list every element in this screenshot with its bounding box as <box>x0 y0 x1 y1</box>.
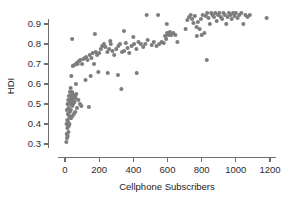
data-point <box>189 13 193 17</box>
data-point <box>208 22 212 26</box>
data-point <box>265 16 269 20</box>
data-point <box>92 62 96 66</box>
data-point <box>106 71 110 75</box>
data-point <box>127 51 131 55</box>
data-point <box>199 17 203 21</box>
data-point <box>191 21 195 25</box>
data-point <box>116 73 120 77</box>
data-point <box>241 22 245 26</box>
data-point <box>156 13 160 17</box>
data-point <box>74 92 78 96</box>
data-point <box>119 87 123 91</box>
data-point <box>122 49 126 53</box>
data-point <box>145 13 149 17</box>
x-tick-label: 600 <box>160 164 176 175</box>
data-point <box>97 51 101 55</box>
data-point <box>215 19 219 23</box>
data-point <box>206 16 210 20</box>
data-point <box>125 46 129 50</box>
data-point <box>143 42 147 46</box>
data-point <box>70 90 74 94</box>
data-point <box>164 37 168 41</box>
data-point <box>198 27 202 31</box>
data-point <box>76 98 80 102</box>
y-tick-label: 0.8 <box>28 38 41 49</box>
data-point <box>224 22 228 26</box>
data-point <box>217 11 221 15</box>
data-points-layer <box>64 11 268 144</box>
data-point <box>248 13 252 17</box>
scatter-plot-figure: 0.30.40.50.60.70.80.9 020040060080010001… <box>0 0 286 198</box>
x-tick-label: 1000 <box>225 164 246 175</box>
data-point <box>165 22 169 26</box>
data-point <box>205 11 209 15</box>
data-point <box>108 39 112 43</box>
data-point <box>80 62 84 66</box>
data-point <box>124 41 128 45</box>
data-point <box>89 56 93 60</box>
y-tick-label: 0.6 <box>28 78 41 89</box>
y-tick-label: 0.3 <box>28 138 41 149</box>
data-point <box>79 104 83 108</box>
chart-canvas: 0.30.40.50.60.70.80.9 020040060080010001… <box>0 0 286 198</box>
data-point <box>195 34 199 38</box>
data-point <box>118 42 122 46</box>
data-point <box>132 42 136 46</box>
data-point <box>135 71 139 75</box>
data-point <box>162 41 166 45</box>
y-axis-title: HDI <box>5 78 16 94</box>
data-point <box>70 37 74 41</box>
data-point <box>220 17 224 21</box>
data-point <box>66 134 70 138</box>
data-point <box>69 86 73 90</box>
data-point <box>87 105 91 109</box>
data-point <box>184 27 188 31</box>
data-point <box>173 33 177 37</box>
x-tick-label: 1200 <box>259 164 280 175</box>
y-tick-label: 0.5 <box>28 98 41 109</box>
data-point <box>69 74 73 78</box>
y-tick-label: 0.9 <box>28 18 41 29</box>
data-point <box>152 40 156 44</box>
data-point <box>205 58 209 62</box>
data-point <box>103 45 107 49</box>
data-point <box>66 130 70 134</box>
data-point <box>122 29 126 33</box>
y-tick-group: 0.30.40.50.60.70.80.9 <box>28 18 49 149</box>
data-point <box>73 110 77 114</box>
data-point <box>175 40 179 44</box>
data-point <box>74 82 78 86</box>
x-tick-label: 0 <box>62 164 67 175</box>
data-point <box>212 15 216 19</box>
data-point <box>93 32 97 36</box>
x-tick-label: 400 <box>125 164 141 175</box>
x-tick-group: 020040060080010001200 <box>62 158 280 176</box>
data-point <box>234 11 238 15</box>
data-point <box>146 38 150 42</box>
data-point <box>67 106 71 110</box>
y-tick-label: 0.7 <box>28 58 41 69</box>
data-point <box>200 33 204 37</box>
data-point <box>67 122 71 126</box>
data-point <box>89 74 93 78</box>
data-point <box>110 49 114 53</box>
data-point <box>112 53 116 57</box>
x-axis-title: Cellphone Subscribers <box>119 181 215 192</box>
data-point <box>131 35 135 39</box>
data-point <box>64 140 68 144</box>
x-tick-label: 200 <box>91 164 107 175</box>
data-point <box>75 106 79 110</box>
data-point <box>96 70 100 74</box>
x-tick-label: 800 <box>194 164 210 175</box>
data-point <box>196 20 200 24</box>
data-point <box>193 14 197 18</box>
data-point <box>83 78 87 82</box>
data-point <box>107 47 111 51</box>
y-tick-label: 0.4 <box>28 118 41 129</box>
y-axis-group: 0.30.40.50.60.70.80.9 <box>28 18 49 149</box>
data-point <box>134 47 138 51</box>
data-point <box>239 11 243 15</box>
data-point <box>86 58 90 62</box>
x-axis-group: 020040060080010001200 <box>58 158 281 176</box>
